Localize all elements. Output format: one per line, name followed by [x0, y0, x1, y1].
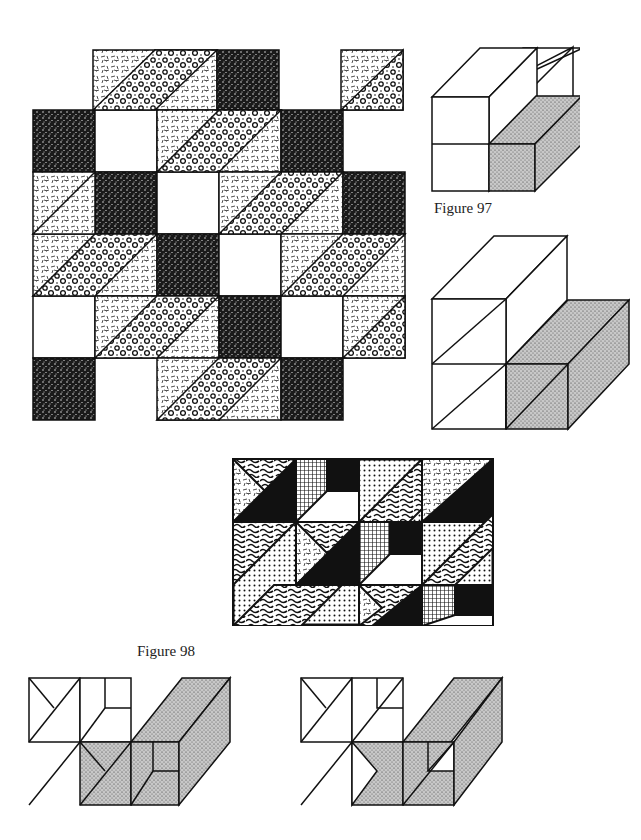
- figure-98-quilt: [232, 458, 494, 626]
- figure-97-top-diagram: [430, 45, 580, 195]
- figure-97-bottom-diagram: [430, 234, 630, 434]
- diagram-bottom-right: [297, 675, 507, 825]
- figure-97-caption: Figure 97: [434, 200, 492, 217]
- quilt-large: [30, 45, 410, 435]
- figure-98-caption: Figure 98: [137, 643, 195, 660]
- diagram-bottom-left: [25, 675, 235, 825]
